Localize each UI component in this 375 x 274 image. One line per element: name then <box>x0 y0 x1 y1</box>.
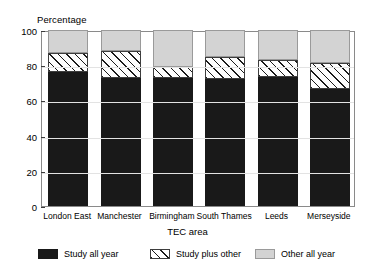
x-axis-label: South Thames <box>197 211 252 221</box>
y-tick-mark <box>41 137 45 138</box>
y-axis-title: Percentage <box>37 14 87 25</box>
legend-swatch-icon <box>255 249 275 259</box>
stacked-bar-chart: Percentage 020406080100 London EastManch… <box>0 0 375 274</box>
y-tick-label: 40 <box>13 131 37 142</box>
bars-layer <box>42 32 354 206</box>
bar-segment <box>258 30 298 60</box>
bar-segment <box>258 60 298 77</box>
bar-segment <box>310 89 350 206</box>
y-tick-mark <box>41 66 45 67</box>
bar-segment <box>101 30 141 51</box>
bar-segment <box>48 72 88 206</box>
legend-label: Other all year <box>281 249 335 259</box>
x-axis-label: London East <box>43 211 91 221</box>
y-tick-label: 0 <box>13 202 37 213</box>
bar-stack <box>310 30 350 206</box>
y-tick-mark <box>41 31 45 32</box>
bar-segment <box>101 51 141 77</box>
y-tick-mark <box>41 207 45 208</box>
bar-segment <box>153 78 193 206</box>
bar-segment <box>48 53 88 72</box>
x-axis-label: Manchester <box>97 211 141 221</box>
y-tick-mark <box>41 172 45 173</box>
gridline <box>42 173 354 174</box>
bar-segment <box>101 78 141 206</box>
y-tick-label: 60 <box>13 96 37 107</box>
bar-stack <box>153 30 193 206</box>
legend-swatch-icon <box>150 249 170 259</box>
gridline <box>42 138 354 139</box>
legend-item: Other all year <box>255 249 335 259</box>
legend-label: Study plus other <box>176 249 241 259</box>
bar-stack <box>258 30 298 206</box>
y-tick-mark <box>41 101 45 102</box>
x-axis-label: Birmingham <box>149 211 194 221</box>
bar-stack <box>48 30 88 206</box>
bar-segment <box>205 79 245 206</box>
x-axis-label: Merseyside <box>307 211 350 221</box>
gridline <box>42 102 354 103</box>
chart-legend: Study all yearStudy plus otherOther all … <box>0 249 375 265</box>
y-tick-label: 20 <box>13 166 37 177</box>
bar-segment <box>153 30 193 67</box>
x-axis-title: TEC area <box>0 226 375 237</box>
bar-segment <box>205 57 245 79</box>
bar-segment <box>258 77 298 206</box>
bar-segment <box>205 30 245 57</box>
x-axis-label: Leeds <box>265 211 288 221</box>
legend-item: Study plus other <box>150 249 241 259</box>
bar-stack <box>205 30 245 206</box>
bar-stack <box>101 30 141 206</box>
legend-swatch-icon <box>38 249 58 259</box>
bar-segment <box>310 30 350 63</box>
bar-segment <box>48 30 88 53</box>
y-tick-label: 100 <box>13 26 37 37</box>
gridline <box>42 67 354 68</box>
legend-label: Study all year <box>64 249 119 259</box>
bar-segment <box>153 67 193 78</box>
plot-area <box>41 31 355 207</box>
y-tick-label: 80 <box>13 61 37 72</box>
legend-item: Study all year <box>38 249 119 259</box>
